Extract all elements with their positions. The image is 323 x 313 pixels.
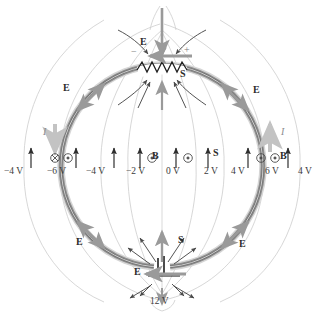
equipotential-label-minus4-inner: −4 V — [86, 166, 105, 176]
equipotential-label-zero: 0 V — [166, 166, 180, 176]
equipotential-label-minus4-outer: −4 V — [4, 166, 23, 176]
efield-label-lower-left: E⃗ — [76, 236, 90, 247]
physics-field-diagram: −4 V −6 V −4 V −2 V 0 V 2 V 4 V 6 V 4 V … — [0, 0, 323, 313]
current-label-right: I — [281, 126, 284, 137]
equipotential-label-minus6: −6 V — [47, 166, 66, 176]
efield-label-lower-right: E⃗ — [239, 238, 253, 249]
battery-voltage-label: 12 V — [150, 296, 169, 306]
equipotential-label-plus6: 6 V — [265, 166, 279, 176]
current-arrows — [55, 124, 270, 152]
efield-label-upper-right: E⃗ — [253, 84, 267, 95]
efield-label-bottom: E⃗ — [134, 266, 148, 277]
efield-arrow-upper-left — [78, 84, 104, 110]
bfield-marker-out-center-right — [184, 154, 193, 163]
resistor-plus-terminal: + — [184, 44, 190, 55]
bfield-marker-out-right-outer — [271, 154, 280, 163]
poynting-label-top: S⃗ — [180, 68, 193, 79]
current-label-left: I — [43, 126, 46, 137]
efield-label-top: E⃗ — [140, 36, 154, 47]
poynting-label-middle: S⃗ — [213, 147, 226, 158]
bfield-label-right: B⃗ — [280, 150, 294, 161]
equipotential-label-plus4-outer: 4 V — [298, 166, 312, 176]
resistor-minus-terminal: − — [131, 46, 137, 57]
efield-label-upper-left: E⃗ — [63, 82, 77, 93]
equipotential-label-minus2: −2 V — [126, 166, 145, 176]
poynting-label-bottom: S⃗ — [178, 234, 191, 245]
bfield-label-left: B⃗ — [152, 150, 166, 161]
equipotential-label-plus2: 2 V — [204, 166, 218, 176]
equipotential-label-plus4-inner: 4 V — [231, 166, 245, 176]
